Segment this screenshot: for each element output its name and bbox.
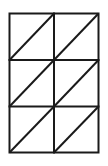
triangle-grid-diagram [0, 0, 108, 166]
grid-lines [10, 14, 99, 153]
diagonal-r1-c1 [10, 14, 55, 61]
diagonal-r2-c1 [10, 60, 55, 107]
diagonal-r3-c2 [54, 107, 99, 153]
diagonal-r3-c1 [10, 107, 55, 153]
diagonal-r1-c2 [54, 14, 99, 61]
diagonal-r2-c2 [54, 60, 99, 107]
